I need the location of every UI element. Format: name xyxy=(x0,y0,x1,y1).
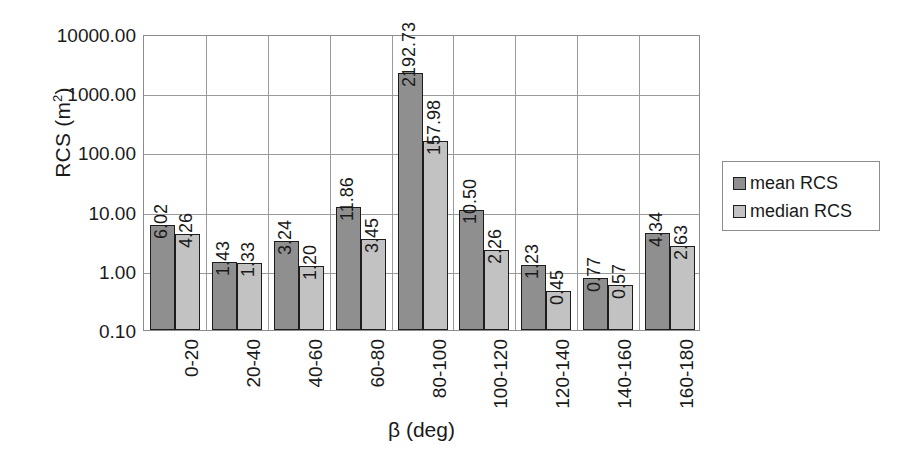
x-axis-tick-labels: 0-2020-4040-6060-8080-100100-120120-1401… xyxy=(143,333,700,413)
gridline-vertical xyxy=(515,36,516,330)
value-label-median-120-140: 0.45 xyxy=(548,270,566,305)
gridline-vertical xyxy=(639,36,640,330)
x-axis-tick-100-120: 100-120 xyxy=(491,339,510,409)
bar-mean-60-80 xyxy=(336,207,361,330)
value-label-median-60-80: 3.45 xyxy=(363,218,381,253)
y-axis-tick-2: 10.00 xyxy=(28,203,136,222)
bar-mean-80-100 xyxy=(398,73,423,330)
value-label-median-80-100: 157.98 xyxy=(425,100,443,155)
value-label-mean-40-60: 3.24 xyxy=(276,220,294,255)
bar-median-80-100 xyxy=(423,141,448,330)
bar-median-0-20 xyxy=(175,234,200,330)
gridline-vertical xyxy=(206,36,207,330)
legend-swatch-mean-icon xyxy=(733,177,746,190)
value-label-mean-0-20: 6.02 xyxy=(152,204,170,239)
gridline-vertical xyxy=(577,36,578,330)
value-label-mean-140-160: 0.77 xyxy=(585,256,603,291)
plot-area: 6.021.433.2411.862192.7310.501.230.774.3… xyxy=(143,35,700,331)
y-axis-tick-0: 0.10 xyxy=(28,322,136,341)
x-axis-tick-120-140: 120-140 xyxy=(553,339,572,409)
bar-mean-160-180 xyxy=(645,233,670,330)
value-label-mean-60-80: 11.86 xyxy=(338,177,356,221)
y-axis-tick-labels: 0.101.0010.00100.001000.0010000.00 xyxy=(28,35,136,331)
value-label-mean-120-140: 1.23 xyxy=(523,244,541,279)
y-axis-tick-1: 1.00 xyxy=(28,262,136,281)
legend-label-median: median RCS xyxy=(750,202,852,220)
value-label-median-20-40: 1.33 xyxy=(239,242,257,277)
legend-label-mean: mean RCS xyxy=(750,174,838,192)
chart-legend: mean RCS median RCS xyxy=(722,161,880,231)
bar-mean-100-120 xyxy=(459,210,484,330)
gridline-vertical xyxy=(453,36,454,330)
gridline-vertical xyxy=(330,36,331,330)
value-label-median-100-120: 2.26 xyxy=(486,229,504,264)
value-label-mean-160-180: 4.34 xyxy=(647,212,665,247)
x-axis-tick-0-20: 0-20 xyxy=(182,339,201,377)
value-label-mean-80-100: 2192.73 xyxy=(400,22,418,87)
legend-item-median-rcs[interactable]: median RCS xyxy=(733,197,879,225)
value-label-mean-100-120: 10.50 xyxy=(461,179,479,224)
value-label-mean-20-40: 1.43 xyxy=(214,241,232,276)
y-axis-tick-4: 1000.00 xyxy=(28,85,136,104)
bar-mean-0-20 xyxy=(150,225,175,330)
x-axis-title: β (deg) xyxy=(143,418,700,442)
y-axis-tick-3: 100.00 xyxy=(28,144,136,163)
x-axis-tick-140-160: 140-160 xyxy=(615,339,634,409)
gridline-vertical xyxy=(392,36,393,330)
legend-swatch-median-icon xyxy=(733,205,746,218)
x-axis-tick-60-80: 60-80 xyxy=(368,339,387,388)
x-axis-tick-40-60: 40-60 xyxy=(306,339,325,388)
x-axis-tick-160-180: 160-180 xyxy=(677,339,696,409)
x-axis-tick-80-100: 80-100 xyxy=(430,339,449,398)
y-axis-tick-5: 10000.00 xyxy=(28,26,136,45)
rcs-bar-chart: RCS (m2) 0.101.0010.00100.001000.0010000… xyxy=(0,0,911,461)
legend-item-mean-rcs[interactable]: mean RCS xyxy=(733,169,879,197)
value-label-median-140-160: 0.57 xyxy=(610,264,628,299)
gridline-vertical xyxy=(268,36,269,330)
value-label-median-160-180: 2.63 xyxy=(672,225,690,260)
value-label-median-40-60: 1.20 xyxy=(301,245,319,280)
value-label-median-0-20: 4.26 xyxy=(177,212,195,247)
x-axis-tick-20-40: 20-40 xyxy=(244,339,263,388)
